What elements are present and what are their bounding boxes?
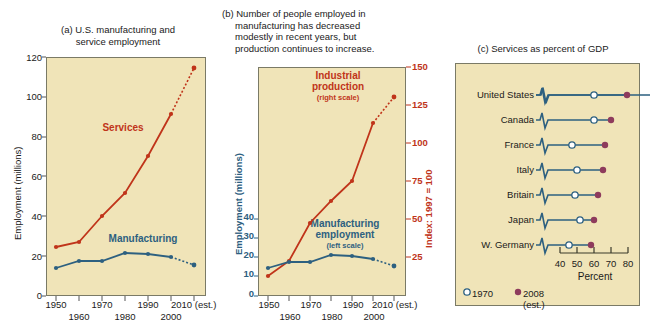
panel-c-marker-2008-wgermany — [588, 242, 594, 248]
panel-c-row-france-line — [536, 138, 608, 153]
panel-c-marker-2008-italy — [600, 167, 606, 173]
panel-c-marker-2008-canada — [608, 117, 614, 123]
panel-c-series-layer — [0, 0, 650, 333]
panel-c-row-japan-line — [536, 213, 597, 228]
panel-c-marker-2008-britain — [595, 192, 601, 198]
panel-c-row-canada-line — [536, 113, 614, 128]
panel-c-marker-1970-france — [569, 142, 575, 148]
panel-c-row-wgermany-line — [536, 238, 594, 253]
panel-c-marker-1970-britain — [572, 192, 578, 198]
panel-c-marker-1970-japan — [577, 217, 583, 223]
panel-c-legend-marker-1970 — [464, 289, 470, 295]
panel-c-marker-1970-canada — [591, 117, 597, 123]
panel-c-legend-marker-2008 — [515, 289, 521, 295]
panel-c-row-britain-line — [536, 188, 601, 203]
panel-c-marker-1970-us — [591, 92, 597, 98]
panel-c-marker-1970-italy — [574, 167, 580, 173]
panel-c-marker-2008-france — [602, 142, 608, 148]
panel-c-marker-1970-wgermany — [566, 242, 572, 248]
panel-c-row-italy-line — [536, 163, 606, 178]
panel-c-row-us-line — [536, 88, 630, 103]
panel-c-marker-2008-japan — [591, 217, 597, 223]
panel-c-marker-2008-us — [624, 92, 630, 98]
